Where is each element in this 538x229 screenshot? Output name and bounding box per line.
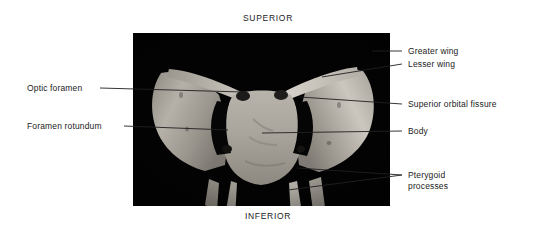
label-pterygoid-processes-line1: Pterygoid	[408, 170, 445, 181]
sphenoid-bone-photo	[133, 33, 390, 206]
label-foramen-rotundum: Foramen rotundum	[27, 121, 102, 132]
label-optic-foramen: Optic foramen	[27, 83, 82, 94]
orientation-label-superior: SUPERIOR	[238, 13, 298, 23]
photo-vignette	[133, 33, 390, 206]
label-pterygoid-processes-line2: processes	[408, 181, 448, 192]
label-superior-orbital-fissure: Superior orbital fissure	[408, 99, 497, 110]
label-lesser-wing: Lesser wing	[408, 59, 455, 70]
orientation-label-inferior: INFERIOR	[238, 211, 298, 221]
label-body: Body	[408, 126, 428, 137]
sphenoid-bone-figure: SUPERIOR	[0, 0, 538, 229]
label-greater-wing: Greater wing	[408, 46, 458, 57]
sphenoid-bone-illustration	[133, 33, 390, 206]
